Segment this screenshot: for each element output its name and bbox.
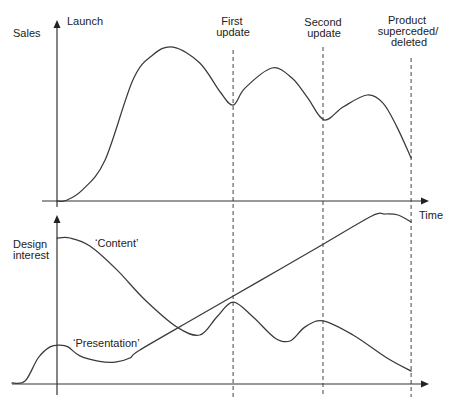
- content-series-label: ‘Content’: [95, 237, 138, 249]
- product-end-label-line3: deleted: [391, 36, 427, 48]
- presentation-series-label: ‘Presentation’: [73, 337, 140, 349]
- sales-x-axis-arrow-icon: [421, 198, 429, 205]
- design-interest-label-line2: interest: [13, 249, 49, 261]
- sales-axis-label: Sales: [13, 27, 41, 39]
- launch-label: Launch: [67, 15, 103, 27]
- lifecycle-chart: Sales Launch First update Second update …: [0, 0, 457, 402]
- first-update-label-line2: update: [216, 26, 250, 38]
- second-update-label-line2: update: [307, 27, 341, 39]
- interest-x-axis-arrow-icon: [421, 381, 429, 388]
- content-curve: [57, 237, 411, 371]
- sales-y-axis-arrow-icon: [54, 20, 61, 28]
- time-axis-label: Time: [419, 209, 443, 221]
- sales-curve: [57, 47, 411, 202]
- interest-y-axis-arrow-icon: [54, 215, 61, 223]
